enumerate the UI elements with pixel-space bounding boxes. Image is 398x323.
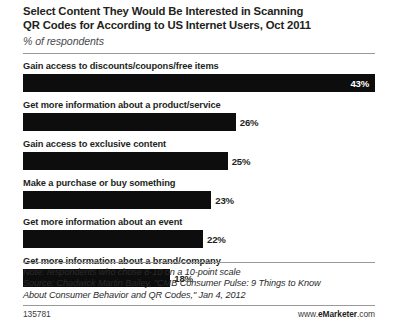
bar: 43% [23,74,375,92]
bar-category-label: Get more information about an event [23,217,375,228]
page-title-line-1: Select Content They Would Be Interested … [23,4,375,18]
chart-id: 135781 [23,309,51,319]
brand-suffix: .com [357,309,375,319]
bar-row: 43% [23,74,375,92]
bar-group: Gain access to exclusive content25% [23,139,375,170]
footer-source-line-2: About Consumer Behavior and QR Codes," J… [23,290,375,301]
chart-footer: Note: respondents who chose 8-10 on a 10… [0,262,398,323]
footer-note: Note: respondents who chose 8-10 on a 10… [23,267,375,278]
bar [23,113,236,131]
bar-value-label: 25% [228,156,251,167]
bar-row: 25% [23,152,375,170]
bar-row: 22% [23,230,375,248]
bar-group: Get more information about an event22% [23,217,375,248]
bar-category-label: Gain access to exclusive content [23,139,375,150]
bar [23,230,203,248]
brand-prefix: www. [298,309,318,319]
bar [23,191,211,209]
page-title-line-2: QR Codes for According to US Internet Us… [23,18,375,32]
bar-chart-plot-area: Gain access to discounts/coupons/free it… [0,54,398,287]
bar-value-label: 43% [350,78,375,89]
bar-category-label: Get more information about a product/ser… [23,100,375,111]
footer-meta-row: 135781 www.eMarketer.com [23,309,375,319]
bar [23,152,228,170]
bar-group: Gain access to discounts/coupons/free it… [23,61,375,92]
chart-header: Select Content They Would Be Interested … [0,0,398,48]
emarketer-brand: www.eMarketer.com [298,309,375,319]
bar-category-label: Gain access to discounts/coupons/free it… [23,61,375,72]
bar-group: Make a purchase or buy something23% [23,178,375,209]
brand-name: eMarketer [318,309,357,319]
bar-value-label: 26% [236,117,259,128]
bar-category-label: Make a purchase or buy something [23,178,375,189]
chart-subtitle: % of respondents [23,34,375,48]
bar-row: 26% [23,113,375,131]
emarketer-chart-card: Select Content They Would Be Interested … [0,0,398,323]
footer-divider-top [23,262,375,263]
bar-value-label: 23% [211,195,234,206]
bar-group: Get more information about a product/ser… [23,100,375,131]
footer-divider-bottom [23,305,375,306]
bar-value-label: 22% [203,234,226,245]
bar-row: 23% [23,191,375,209]
footer-source-line-1: Source: Chadwick Martin Bailey, "CMB Con… [23,278,375,289]
